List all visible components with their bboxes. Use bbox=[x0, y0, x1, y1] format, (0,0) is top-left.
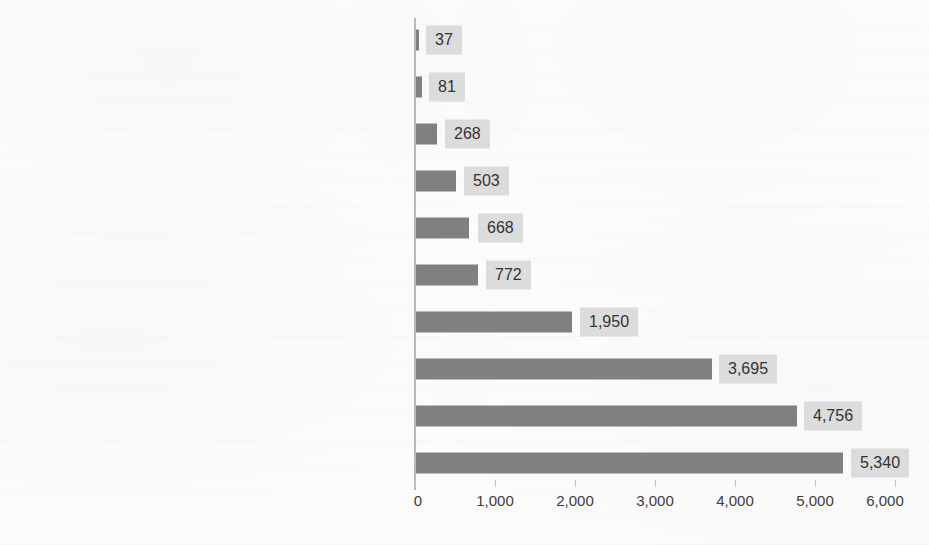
x-tick-mark bbox=[735, 480, 736, 487]
value-label-producers-of-services: 3,695 bbox=[719, 355, 777, 384]
value-label-other-services: 668 bbox=[478, 214, 523, 243]
bar-row: Other Services 668 bbox=[0, 206, 929, 250]
x-axis-tick-marks bbox=[0, 480, 929, 490]
bar-row: Producers of services 3,695 bbox=[0, 347, 929, 391]
x-tick-label-2000: 2,000 bbox=[556, 492, 594, 509]
bar-row: Industry 503 bbox=[0, 159, 929, 203]
x-tick-mark bbox=[575, 480, 576, 487]
bar-other-services bbox=[416, 218, 469, 239]
x-tick-label-5000: 5,000 bbox=[796, 492, 834, 509]
bar-row: Accomodation and food service activities… bbox=[0, 253, 929, 297]
bar-row: Construction 81 bbox=[0, 65, 929, 109]
x-tick-label-1000: 1,000 bbox=[476, 492, 514, 509]
value-label-industry: 503 bbox=[464, 167, 509, 196]
x-tick-label-3000: 3,000 bbox=[636, 492, 674, 509]
bar-transport-and-storage bbox=[416, 124, 437, 145]
x-tick-mark bbox=[415, 480, 416, 487]
bar-accomodation-and-food-service-activities bbox=[416, 265, 478, 286]
value-label-agriculture-forestry-fishing: 4,756 bbox=[804, 402, 862, 431]
value-label-producers-of-goods: 5,340 bbox=[851, 449, 909, 478]
bar-chart-plot-area: Information and Communication 37 Constru… bbox=[0, 0, 929, 545]
x-tick-label-0: 0 bbox=[414, 492, 422, 509]
bar-producers-of-services bbox=[416, 359, 712, 380]
x-tick-mark bbox=[895, 480, 896, 487]
x-axis-labels: 0 1,000 2,000 3,000 4,000 5,000 6,000 bbox=[0, 492, 929, 516]
x-tick-mark bbox=[655, 480, 656, 487]
value-label-construction: 81 bbox=[429, 73, 465, 102]
value-label-transport-and-storage: 268 bbox=[445, 120, 490, 149]
bar-industry bbox=[416, 171, 456, 192]
bar-row: Information and Communication 37 bbox=[0, 18, 929, 62]
bar-producers-of-goods bbox=[416, 453, 843, 474]
value-label-accomodation-and-food-service-activities: 772 bbox=[486, 261, 531, 290]
x-tick-label-6000: 6,000 bbox=[866, 492, 904, 509]
bar-row: Transport and storage 268 bbox=[0, 112, 929, 156]
x-tick-label-4000: 4,000 bbox=[716, 492, 754, 509]
value-label-information-and-communication: 37 bbox=[426, 26, 462, 55]
bar-agriculture-forestry-fishing bbox=[416, 406, 797, 427]
bar-information-and-communication bbox=[416, 30, 419, 51]
bar-row: Agriculture, forestry, fishing 4,756 bbox=[0, 394, 929, 438]
x-tick-mark bbox=[815, 480, 816, 487]
bar-row: Trade 1,950 bbox=[0, 300, 929, 344]
bar-trade bbox=[416, 312, 572, 333]
x-tick-mark bbox=[495, 480, 496, 487]
bar-row: Producers of goods 5,340 bbox=[0, 441, 929, 485]
chart-page: Information and Communication 37 Constru… bbox=[0, 0, 929, 545]
bar-construction bbox=[416, 77, 422, 98]
value-label-trade: 1,950 bbox=[580, 308, 638, 337]
